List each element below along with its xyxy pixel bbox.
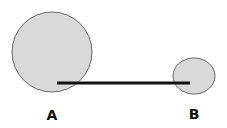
label-a: A (47, 107, 58, 123)
circle-b (173, 58, 215, 94)
label-b: B (189, 106, 200, 122)
circle-a (12, 12, 92, 92)
diagram-canvas: A B (0, 0, 227, 128)
